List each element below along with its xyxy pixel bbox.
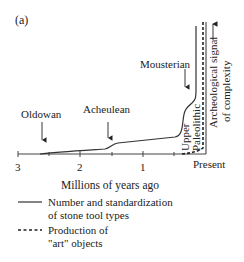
stone-tools-curve xyxy=(40,26,196,154)
tick-label-3: 3 xyxy=(15,161,21,173)
tick-label-1: 1 xyxy=(140,161,146,173)
tick-label-2: 2 xyxy=(77,161,83,173)
legend-solid-line1: Number and standardization xyxy=(48,196,173,208)
mousterian-label: Mousterian xyxy=(140,58,191,70)
legend-dashed-line1: Production of xyxy=(48,224,109,236)
acheulean-label: Acheulean xyxy=(83,103,131,115)
chart: (a) 3 2 1 Present Millions of years ago … xyxy=(0,0,244,262)
legend-dashed-line2: "art" objects xyxy=(48,237,103,249)
paleolithic-label: Paleolithic xyxy=(190,104,202,151)
legend-solid-line2: of stone tool types xyxy=(48,209,129,221)
oldowan-label: Oldowan xyxy=(21,108,62,120)
x-axis-label: Millions of years ago xyxy=(61,179,159,192)
signal-label-line1: Archeological signal xyxy=(207,37,219,128)
panel-label: (a) xyxy=(15,13,28,27)
tick-label-present: Present xyxy=(193,158,225,170)
signal-label-line2: of complexity xyxy=(220,60,232,122)
